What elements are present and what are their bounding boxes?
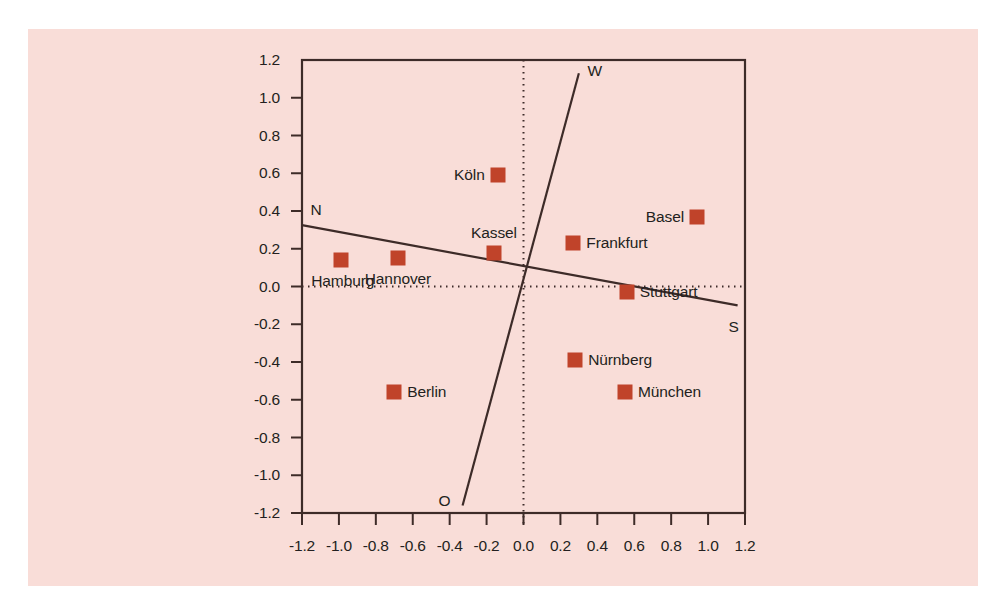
- x-axis-tick-label: -0.6: [400, 537, 426, 555]
- data-point-label: Stuttgart: [640, 283, 698, 301]
- y-axis-tick-label: 0.6: [210, 164, 280, 182]
- direction-axis-label-N: N: [310, 201, 321, 219]
- x-axis-tick-label: 1.0: [698, 537, 719, 555]
- data-point-marker: [490, 168, 505, 183]
- y-axis-tick-label: -0.4: [210, 353, 280, 371]
- y-axis-tick-label: -0.8: [210, 429, 280, 447]
- x-axis-tick-label: 0.4: [587, 537, 608, 555]
- x-axis-tick-label: -1.0: [326, 537, 352, 555]
- y-axis-tick-label: -1.2: [210, 504, 280, 522]
- x-axis-tick-label: 1.2: [735, 537, 756, 555]
- data-point-marker: [690, 209, 705, 224]
- data-point-marker: [618, 385, 633, 400]
- data-point-label: Kassel: [471, 224, 517, 242]
- data-point-marker: [619, 285, 634, 300]
- y-axis-tick-label: -1.0: [210, 466, 280, 484]
- plot-svg: [0, 0, 1003, 610]
- y-axis-tick-label: 0.0: [210, 278, 280, 296]
- data-point-label: Frankfurt: [586, 234, 647, 252]
- data-point-label: Hannover: [365, 270, 431, 288]
- data-point-label: Berlin: [407, 383, 446, 401]
- data-point-marker: [387, 385, 402, 400]
- y-axis-tick-label: 1.2: [210, 51, 280, 69]
- data-point-label: Nürnberg: [588, 351, 652, 369]
- direction-axis-label-W: W: [588, 62, 603, 80]
- y-axis-tick-label: 0.4: [210, 202, 280, 220]
- y-axis-tick-label: 0.8: [210, 127, 280, 145]
- data-point-marker: [568, 353, 583, 368]
- data-point-marker: [486, 245, 501, 260]
- x-axis-tick-label: 0.2: [550, 537, 571, 555]
- data-point-label: Basel: [646, 208, 684, 226]
- x-axis-tick-label: -0.4: [437, 537, 463, 555]
- direction-axis-line-W-O: [463, 73, 579, 505]
- x-axis-tick-label: -0.8: [363, 537, 389, 555]
- data-point-marker: [390, 251, 405, 266]
- y-axis-tick-label: 1.0: [210, 89, 280, 107]
- x-axis-tick-label: -1.2: [289, 537, 315, 555]
- x-axis-tick-label: 0.0: [513, 537, 534, 555]
- y-axis-tick-label: 0.2: [210, 240, 280, 258]
- data-point-marker: [333, 253, 348, 268]
- direction-axis-label-O: O: [439, 492, 451, 510]
- x-axis-tick-label: 0.6: [624, 537, 645, 555]
- direction-axis-label-S: S: [728, 318, 738, 336]
- x-axis-tick-label: 0.8: [661, 537, 682, 555]
- y-axis-tick-label: -0.6: [210, 391, 280, 409]
- data-point-label: Köln: [454, 166, 485, 184]
- x-axis-tick-label: -0.2: [474, 537, 500, 555]
- data-point-label: München: [638, 383, 701, 401]
- figure-canvas: 1.21.00.80.60.40.20.0-0.2-0.4-0.6-0.8-1.…: [0, 0, 1003, 610]
- y-axis-tick-label: -0.2: [210, 315, 280, 333]
- data-point-marker: [566, 236, 581, 251]
